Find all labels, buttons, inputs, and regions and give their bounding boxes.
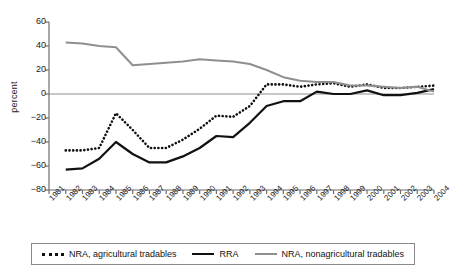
legend-label: RRA — [219, 249, 238, 259]
x-tick-label: 1984 — [98, 184, 116, 202]
x-tick-label: 1993 — [249, 184, 267, 202]
x-tick-label: 2002 — [400, 184, 418, 202]
x-tick-label: 1996 — [299, 184, 317, 202]
legend-item-rra[interactable]: RRA — [192, 249, 238, 259]
x-tick-label: 1983 — [81, 184, 99, 202]
x-tick-label: 1995 — [282, 184, 300, 202]
x-tick-label: 2003 — [416, 184, 434, 202]
legend-item-nra-agricultural-tradables[interactable]: NRA, agricultural tradables — [42, 249, 177, 259]
legend-label: NRA, nonagricultural tradables — [282, 249, 405, 259]
x-tick-label: 1994 — [266, 184, 284, 202]
x-tick-label: 1999 — [349, 184, 367, 202]
x-tick-label: 1989 — [182, 184, 200, 202]
chart-legend: NRA, agricultural tradables RRA NRA, non… — [31, 243, 415, 265]
x-tick-label: 1998 — [333, 184, 351, 202]
x-tick-label: 1988 — [165, 184, 183, 202]
x-tick-label: 1992 — [232, 184, 250, 202]
x-tick-label: 1982 — [65, 184, 83, 202]
solid-dark-line-swatch-icon — [192, 253, 214, 256]
legend-item-nra-nonagricultural-tradables[interactable]: NRA, nonagricultural tradables — [255, 249, 405, 259]
x-tick-label: 1990 — [199, 184, 217, 202]
x-tick-label: 1987 — [148, 184, 166, 202]
x-tick-label: 2001 — [383, 184, 401, 202]
x-tick-label: 1985 — [115, 184, 133, 202]
x-tick-label: 1981 — [48, 184, 66, 202]
x-tick-label: 2000 — [366, 184, 384, 202]
legend-label: NRA, agricultural tradables — [69, 249, 177, 259]
x-tick-label: 1986 — [132, 184, 150, 202]
x-tick-label: 2004 — [433, 184, 451, 202]
solid-gray-line-swatch-icon — [255, 253, 277, 255]
x-tick-label: 1991 — [215, 184, 233, 202]
x-tick-label: 1997 — [316, 184, 334, 202]
dotted-line-swatch-icon — [42, 253, 64, 256]
